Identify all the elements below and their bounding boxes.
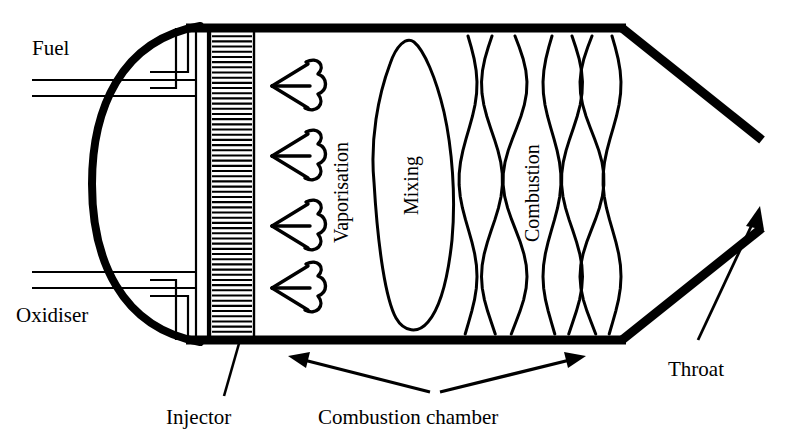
injector-plate (210, 28, 254, 340)
injector-leader-line (224, 340, 240, 396)
flame-wave (482, 36, 503, 334)
label-fuel: Fuel (32, 36, 70, 60)
converging-nozzle (622, 28, 762, 340)
label-oxidiser: Oxidiser (16, 303, 88, 327)
flame-wave (603, 36, 621, 334)
spray-cone (272, 262, 326, 312)
injector-dome (92, 26, 200, 342)
vaporisation-spray-cones (272, 60, 326, 312)
spray-cone (272, 60, 326, 110)
flame-wave (459, 36, 477, 334)
label-injector: Injector (166, 405, 231, 429)
label-combustion-chamber: Combustion chamber (318, 405, 498, 429)
combustion-chamber-diagram: Vaporisation Mixing Combustion Fuel Oxid… (0, 0, 794, 446)
label-mixing: Mixing (400, 156, 423, 215)
spray-cone (272, 130, 326, 180)
flame-wave (543, 36, 561, 334)
propellant-manifold (150, 28, 208, 340)
label-vaporisation: Vaporisation (330, 142, 353, 243)
combustion-chamber-arrow (288, 352, 586, 392)
label-throat: Throat (668, 357, 724, 381)
label-combustion: Combustion (521, 144, 543, 242)
diagram-canvas: Vaporisation Mixing Combustion Fuel Oxid… (0, 0, 794, 446)
spray-cone (272, 200, 326, 250)
